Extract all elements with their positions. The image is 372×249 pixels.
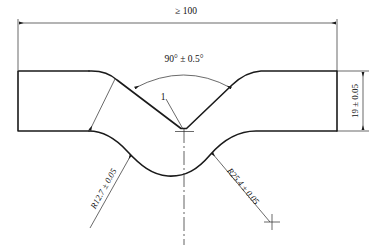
height-label: 19 ± 0.05 — [350, 83, 360, 118]
angle-label: 90° ± 0.5° — [165, 54, 204, 64]
height-dimension: 19 ± 0.05 — [338, 71, 369, 131]
item-callout-label: 1 — [161, 92, 166, 102]
overall-length-label: ≥ 100 — [175, 6, 197, 16]
left-block-edges — [18, 71, 89, 131]
engineering-drawing-canvas: ≥ 100 19 ± 0.05 90° ± 0.5° 1 R12.7 ± 0.0… — [0, 0, 372, 249]
item-callout-1: 1 — [161, 92, 183, 129]
part-outline — [18, 71, 337, 176]
angle-arc — [135, 75, 231, 88]
right-radius-center-cross-icon — [264, 214, 280, 230]
angle-dimension: 90° ± 0.5° — [135, 54, 231, 88]
upper-profile-curve — [89, 71, 337, 129]
lower-profile-curve — [89, 131, 337, 176]
left-radius-dimension: R12.7 ± 0.05 — [88, 79, 131, 228]
right-radius-label: R25.4 ± 0.05 — [225, 165, 262, 207]
right-radius-dimension: R25.4 ± 0.05 — [212, 153, 280, 230]
left-radius-inner-leader — [90, 79, 115, 130]
